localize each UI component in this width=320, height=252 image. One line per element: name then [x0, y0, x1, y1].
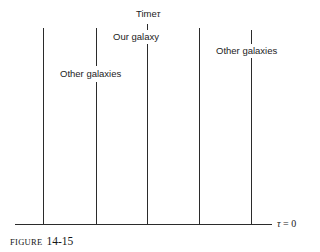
- worldline-other-galaxies-3: [199, 28, 200, 224]
- tau-zero-axis: [15, 224, 272, 225]
- figure-14-15: Timeτ Our galaxy Other galaxies Other ga…: [0, 0, 320, 252]
- other-galaxies-label-left: Other galaxies: [57, 68, 124, 79]
- other-galaxies-label-right: Other galaxies: [213, 45, 280, 56]
- tau-symbol-icon: τ: [157, 8, 161, 19]
- worldline-our-galaxy-lower: [147, 44, 148, 224]
- time-axis-label-text: Time: [136, 8, 157, 19]
- figure-caption-number: 14-15: [47, 235, 74, 247]
- worldline-diagram: Timeτ Our galaxy Other galaxies Other ga…: [0, 0, 320, 252]
- worldline-other-galaxies-2-upper: [96, 28, 97, 66]
- worldline-other-galaxies-2-lower: [96, 82, 97, 224]
- time-axis-label: Timeτ: [133, 8, 163, 19]
- worldline-our-galaxy-upper: [147, 24, 148, 30]
- tau-equals-zero-label: τ = 0: [277, 218, 296, 229]
- our-galaxy-label: Our galaxy: [110, 31, 162, 42]
- tau-equals-zero-value: = 0: [281, 218, 297, 229]
- worldline-other-galaxies-1: [43, 28, 44, 224]
- figure-caption-word: FIGURE: [10, 237, 43, 247]
- figure-caption: FIGURE14-15: [10, 235, 73, 247]
- worldline-other-galaxies-4-upper: [251, 30, 252, 44]
- worldline-other-galaxies-4-lower: [251, 58, 252, 224]
